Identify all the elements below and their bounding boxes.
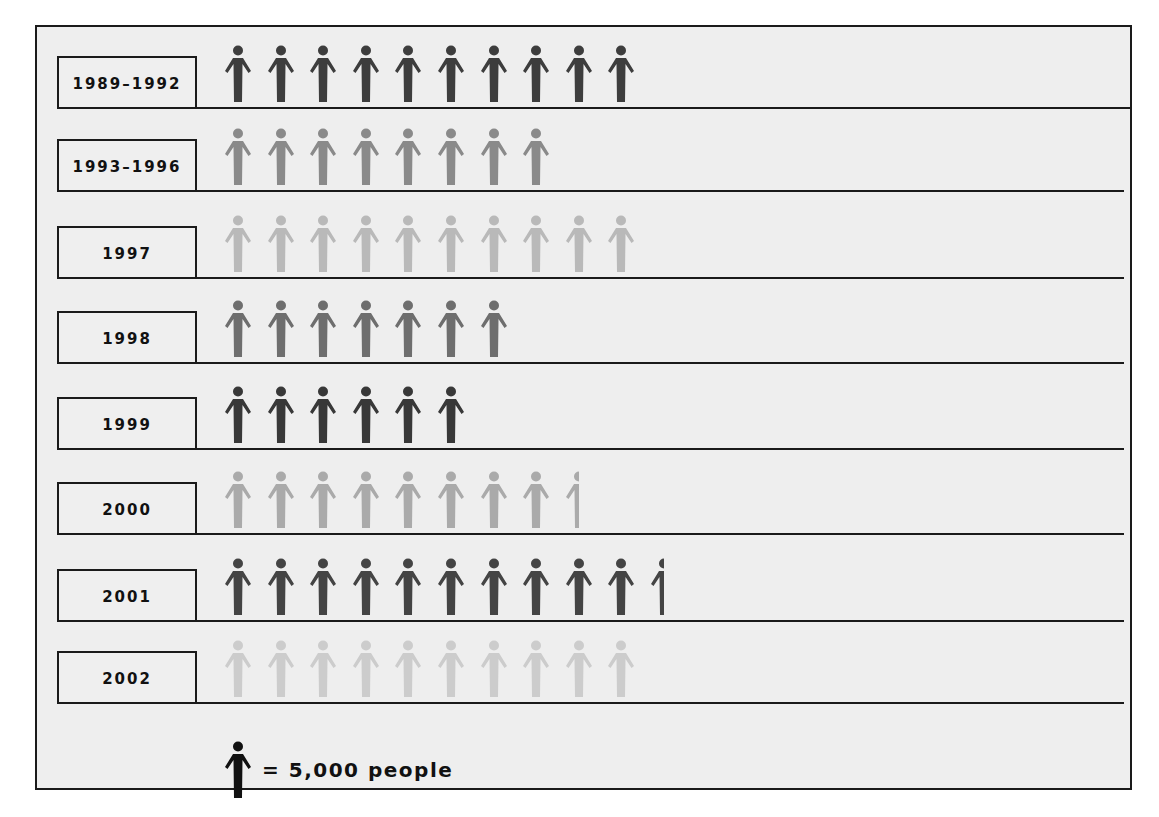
person-icon: [267, 45, 295, 103]
person-icon: [224, 640, 252, 698]
person-icon: [352, 386, 380, 444]
row-label: 1997: [57, 226, 197, 279]
person-icon: [437, 558, 465, 616]
person-icon: [309, 215, 337, 273]
pictograph-frame: = 5,000 people 1989–19921993–19961997199…: [35, 25, 1132, 790]
row-label: 1993–1996: [57, 139, 197, 192]
row-divider: [57, 533, 1124, 535]
person-icon: [394, 45, 422, 103]
person-icon: [437, 300, 465, 358]
person-icon: [394, 640, 422, 698]
person-icon: [480, 128, 508, 186]
person-icon: [267, 386, 295, 444]
person-icon: [394, 215, 422, 273]
person-icon: [480, 300, 508, 358]
person-icon: [224, 558, 252, 616]
person-icon: [224, 386, 252, 444]
person-icon: [352, 471, 380, 529]
person-icon: [437, 471, 465, 529]
person-icon: [607, 640, 635, 698]
person-icon: [224, 741, 252, 799]
person-icon: [224, 471, 252, 529]
person-icon: [437, 45, 465, 103]
person-icon: [394, 300, 422, 358]
legend-text: = 5,000 people: [262, 758, 453, 782]
person-icon: [437, 215, 465, 273]
person-icon: [309, 128, 337, 186]
person-icon: [267, 471, 295, 529]
pictograph-row: 2000: [37, 449, 1130, 535]
person-icon: [522, 45, 550, 103]
person-icon: [607, 215, 635, 273]
person-icon: [522, 128, 550, 186]
person-icon: [352, 300, 380, 358]
pictograph-row: 2002: [37, 618, 1130, 704]
person-icon: [522, 215, 550, 273]
person-icon: [267, 558, 295, 616]
figure-group: [224, 469, 593, 529]
person-icon: [522, 471, 550, 529]
person-icon: [309, 45, 337, 103]
pictograph-row: 1993–1996: [37, 106, 1130, 192]
row-label: 2000: [57, 482, 197, 535]
pictograph-row: 1989–1992: [37, 23, 1130, 109]
row-label: 2002: [57, 651, 197, 704]
person-icon: [352, 45, 380, 103]
person-icon: [437, 386, 465, 444]
figure-group: [224, 556, 679, 616]
person-icon: [267, 300, 295, 358]
row-label: 2001: [57, 569, 197, 622]
person-icon: [394, 386, 422, 444]
row-label: 1998: [57, 311, 197, 364]
person-icon: [565, 215, 593, 273]
person-icon: [565, 45, 593, 103]
person-icon: [352, 558, 380, 616]
person-icon: [224, 45, 252, 103]
person-icon: [480, 640, 508, 698]
pictograph-row: 1999: [37, 364, 1130, 450]
person-icon: [607, 558, 635, 616]
person-icon: [267, 128, 295, 186]
figure-group: [224, 298, 522, 358]
person-icon: [480, 45, 508, 103]
row-label: 1989–1992: [57, 56, 197, 109]
row-label: 1999: [57, 397, 197, 450]
row-divider: [57, 190, 1124, 192]
person-icon: [480, 558, 508, 616]
person-icon: [607, 45, 635, 103]
person-icon: [352, 128, 380, 186]
person-icon: [522, 558, 550, 616]
person-icon: [309, 558, 337, 616]
person-icon: [352, 215, 380, 273]
person-icon: [437, 640, 465, 698]
person-icon: [565, 640, 593, 698]
person-icon: [224, 300, 252, 358]
pictograph-row: 1998: [37, 278, 1130, 364]
person-icon: [224, 128, 252, 186]
person-icon: [309, 471, 337, 529]
person-icon: [309, 640, 337, 698]
half-person-icon: [650, 558, 664, 616]
figure-group: [224, 43, 650, 103]
legend: = 5,000 people: [224, 741, 453, 799]
figure-group: [224, 384, 480, 444]
figure-group: [224, 126, 565, 186]
person-icon: [565, 558, 593, 616]
figure-group: [224, 213, 650, 273]
person-icon: [267, 215, 295, 273]
person-icon: [480, 215, 508, 273]
person-icon: [224, 215, 252, 273]
pictograph-row: 2001: [37, 536, 1130, 622]
row-divider: [57, 702, 1124, 704]
person-icon: [522, 640, 550, 698]
person-icon: [394, 128, 422, 186]
person-icon: [394, 558, 422, 616]
figure-group: [224, 638, 650, 698]
person-icon: [352, 640, 380, 698]
person-icon: [394, 471, 422, 529]
person-icon: [309, 300, 337, 358]
person-icon: [309, 386, 337, 444]
pictograph-row: 1997: [37, 193, 1130, 279]
half-person-icon: [565, 471, 579, 529]
person-icon: [437, 128, 465, 186]
